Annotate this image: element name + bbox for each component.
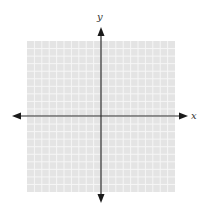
x-axis-label: x [191, 110, 197, 121]
coordinate-plane [0, 0, 203, 204]
y-axis-up-arrow-icon [98, 27, 105, 36]
x-axis-right-arrow-icon [179, 113, 188, 120]
y-axis-down-arrow-icon [98, 194, 105, 203]
x-axis-left-arrow-icon [12, 113, 21, 120]
y-axis-label: y [97, 11, 103, 22]
